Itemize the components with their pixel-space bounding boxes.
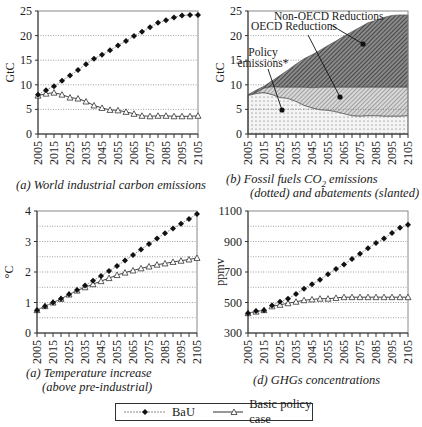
svg-text:5: 5 <box>26 102 32 116</box>
svg-text:4: 4 <box>25 204 31 218</box>
svg-text:25: 25 <box>20 4 32 18</box>
svg-text:2055: 2055 <box>110 340 124 364</box>
svg-text:1: 1 <box>25 296 31 310</box>
chart-panel-a: 0510152025GtC200520152025203520452055206… <box>0 0 211 200</box>
svg-text:2045: 2045 <box>95 141 109 165</box>
svg-text:2105: 2105 <box>401 141 415 165</box>
caption-b-line2: (dotted) and abatements (slanted) <box>250 186 419 200</box>
svg-text:2075: 2075 <box>353 141 367 165</box>
svg-text:0: 0 <box>25 326 31 340</box>
svg-text:2075: 2075 <box>142 340 156 364</box>
svg-text:OECD Reductions: OECD Reductions <box>251 20 337 32</box>
legend-item-bau: BaU <box>124 405 195 420</box>
svg-text:2005: 2005 <box>241 141 255 165</box>
svg-text:2025: 2025 <box>273 141 287 165</box>
chart-c-plot: 01234°C200520152025203520452055206520752… <box>0 200 211 365</box>
svg-text:GtC: GtC <box>3 62 17 82</box>
svg-text:2105: 2105 <box>401 340 415 364</box>
svg-text:2075: 2075 <box>143 141 157 165</box>
svg-text:2005: 2005 <box>30 340 44 364</box>
svg-text:2085: 2085 <box>369 141 383 165</box>
svg-text:2025: 2025 <box>273 340 287 364</box>
svg-text:5: 5 <box>236 102 242 116</box>
svg-text:2055: 2055 <box>321 340 335 364</box>
svg-text:2085: 2085 <box>159 141 173 165</box>
svg-text:15: 15 <box>20 53 32 67</box>
svg-text:2105: 2105 <box>191 141 205 165</box>
chart-a-plot: 0510152025GtC200520152025203520452055206… <box>0 0 211 170</box>
svg-text:2015: 2015 <box>257 141 271 165</box>
svg-text:2035: 2035 <box>289 340 303 364</box>
svg-text:2035: 2035 <box>289 141 303 165</box>
svg-text:2095: 2095 <box>174 340 188 364</box>
chart-panel-b: 0510152025GtC200520152025203520452055206… <box>211 0 422 200</box>
svg-text:2045: 2045 <box>305 141 319 165</box>
svg-text:2025: 2025 <box>62 340 76 364</box>
svg-text:2085: 2085 <box>369 340 383 364</box>
svg-text:emissions*: emissions* <box>237 57 288 69</box>
svg-text:2015: 2015 <box>257 340 271 364</box>
svg-text:2055: 2055 <box>321 141 335 165</box>
svg-text:2: 2 <box>25 265 31 279</box>
open-triangle-marker-icon <box>213 407 243 417</box>
svg-text:2035: 2035 <box>79 141 93 165</box>
svg-text:2025: 2025 <box>63 141 77 165</box>
svg-text:10: 10 <box>230 78 242 92</box>
svg-text:2055: 2055 <box>111 141 125 165</box>
caption-c-line1: (a) Temperature increase <box>26 366 152 380</box>
svg-text:0: 0 <box>26 127 32 141</box>
svg-text:0: 0 <box>236 127 242 141</box>
svg-text:°C: °C <box>2 266 16 279</box>
chart-panel-c: 01234°C200520152025203520452055206520752… <box>0 200 211 400</box>
svg-text:2035: 2035 <box>78 340 92 364</box>
chart-panel-d: 3005007009001100ppmv20052015202520352045… <box>211 200 422 400</box>
svg-text:2005: 2005 <box>31 141 45 165</box>
svg-text:2045: 2045 <box>94 340 108 364</box>
caption-d: (d) GHGs concentrations <box>253 373 380 387</box>
svg-text:2015: 2015 <box>46 340 60 364</box>
filled-diamond-marker-icon <box>124 407 166 417</box>
chart-d-plot: 3005007009001100ppmv20052015202520352045… <box>211 200 422 365</box>
svg-text:2095: 2095 <box>175 141 189 165</box>
caption-c-line2: (above pre-industrial) <box>42 380 152 394</box>
svg-text:2105: 2105 <box>190 340 204 364</box>
svg-text:2065: 2065 <box>337 141 351 165</box>
svg-text:900: 900 <box>224 235 242 249</box>
chart-b-plot: 0510152025GtC200520152025203520452055206… <box>211 0 422 170</box>
legend-item-policy: Basic policy case <box>213 397 312 427</box>
svg-text:2065: 2065 <box>127 141 141 165</box>
svg-text:ppmv: ppmv <box>213 258 227 285</box>
svg-text:3: 3 <box>25 235 31 249</box>
svg-text:20: 20 <box>20 29 32 43</box>
legend: BaU Basic policy case <box>115 403 313 421</box>
svg-text:300: 300 <box>224 326 242 340</box>
svg-text:2065: 2065 <box>337 340 351 364</box>
svg-text:2095: 2095 <box>385 340 399 364</box>
svg-text:2095: 2095 <box>385 141 399 165</box>
svg-text:2045: 2045 <box>305 340 319 364</box>
svg-text:10: 10 <box>20 78 32 92</box>
svg-text:2015: 2015 <box>47 141 61 165</box>
svg-text:20: 20 <box>230 29 242 43</box>
svg-text:2075: 2075 <box>353 340 367 364</box>
svg-text:500: 500 <box>224 296 242 310</box>
svg-text:1100: 1100 <box>218 204 242 218</box>
svg-text:25: 25 <box>230 4 242 18</box>
svg-text:GtC: GtC <box>213 62 227 82</box>
svg-text:2085: 2085 <box>158 340 172 364</box>
caption-a: (a) World industrial carbon emissions <box>16 178 206 192</box>
svg-text:2065: 2065 <box>126 340 140 364</box>
svg-text:2005: 2005 <box>241 340 255 364</box>
